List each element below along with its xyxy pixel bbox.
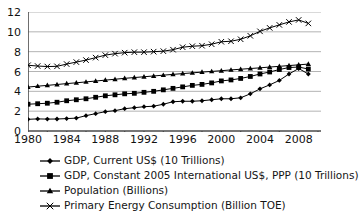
data-point-marker bbox=[28, 102, 30, 107]
data-point-marker bbox=[74, 116, 79, 121]
data-point-marker bbox=[190, 83, 195, 88]
y-axis-labels: 024681012 bbox=[0, 0, 26, 145]
data-point-marker bbox=[84, 113, 89, 118]
data-point-marker bbox=[93, 111, 98, 116]
y-axis-tick-label: 4 bbox=[0, 86, 26, 97]
data-point-marker bbox=[219, 96, 224, 101]
data-point-marker bbox=[267, 70, 272, 75]
x-axis-tick-label: 1992 bbox=[130, 134, 158, 146]
data-point-marker bbox=[64, 98, 69, 103]
chart-svg bbox=[28, 12, 324, 132]
data-point-marker bbox=[84, 96, 89, 101]
data-point-marker bbox=[229, 78, 234, 83]
data-point-marker bbox=[200, 98, 205, 103]
y-axis-tick-label: 12 bbox=[0, 7, 26, 18]
data-point-marker bbox=[248, 33, 254, 39]
data-series bbox=[28, 17, 311, 69]
y-axis-tick-label: 10 bbox=[0, 26, 26, 37]
legend-label: GDP, Current US$ (10 Trillions) bbox=[64, 154, 225, 166]
data-point-marker bbox=[161, 102, 166, 107]
data-point-marker bbox=[151, 89, 156, 94]
series-line bbox=[28, 69, 308, 120]
data-point-marker bbox=[238, 76, 243, 81]
data-point-marker bbox=[103, 93, 108, 98]
x-axis-tick-label: 1984 bbox=[53, 134, 81, 146]
data-point-marker bbox=[35, 101, 40, 106]
data-point-marker bbox=[55, 117, 60, 122]
y-axis-tick-label: 8 bbox=[0, 46, 26, 57]
series-line bbox=[28, 67, 308, 104]
data-point-marker bbox=[180, 84, 185, 89]
data-point-marker bbox=[113, 92, 118, 97]
data-point-marker bbox=[28, 117, 30, 122]
y-axis-tick-label: 6 bbox=[0, 66, 26, 77]
data-point-marker bbox=[171, 99, 176, 104]
data-point-marker bbox=[93, 95, 98, 100]
data-point-marker bbox=[171, 86, 176, 91]
legend-label: Primary Energy Consumption (Billion TOE) bbox=[64, 199, 286, 211]
data-point-marker bbox=[209, 81, 214, 86]
data-point-marker bbox=[258, 86, 263, 91]
data-point-marker bbox=[267, 25, 273, 31]
data-point-marker bbox=[142, 90, 147, 95]
x-axis-tick-label: 2004 bbox=[246, 134, 274, 146]
x-axis-tick-label: 1980 bbox=[14, 134, 42, 146]
data-point-marker bbox=[248, 91, 253, 96]
data-point-marker bbox=[306, 21, 312, 27]
data-point-marker bbox=[200, 82, 205, 87]
data-point-marker bbox=[277, 22, 283, 28]
data-point-marker bbox=[132, 105, 137, 110]
data-point-marker bbox=[306, 67, 311, 72]
x-axis-labels: 19801984198819921996200020042008 bbox=[0, 134, 336, 150]
data-point-marker bbox=[238, 95, 243, 100]
x-axis-tick-label: 2000 bbox=[207, 134, 235, 146]
data-point-marker bbox=[45, 101, 50, 106]
data-point-marker bbox=[229, 96, 234, 101]
data-point-marker bbox=[74, 97, 79, 102]
data-point-marker bbox=[180, 99, 185, 104]
data-point-marker bbox=[209, 97, 214, 102]
data-point-marker bbox=[219, 79, 224, 84]
legend-item[interactable]: GDP, Current US$ (10 Trillions) bbox=[0, 152, 336, 167]
data-point-marker bbox=[306, 61, 311, 66]
data-point-marker bbox=[64, 116, 69, 121]
data-point-marker bbox=[103, 109, 108, 114]
x-axis-tick-label: 2008 bbox=[285, 134, 313, 146]
data-point-marker bbox=[267, 82, 272, 87]
data-point-marker bbox=[142, 104, 147, 109]
legend-triangle-icon bbox=[38, 183, 64, 197]
data-point-marker bbox=[122, 91, 127, 96]
x-axis-tick-label: 1996 bbox=[169, 134, 197, 146]
legend-cross-icon bbox=[38, 198, 64, 212]
data-point-marker bbox=[190, 99, 195, 104]
legend-label: GDP, Constant 2005 International US$, PP… bbox=[64, 169, 359, 181]
data-point-marker bbox=[151, 104, 156, 109]
data-point-marker bbox=[55, 100, 60, 105]
data-point-marker bbox=[161, 87, 166, 92]
legend-diamond-icon bbox=[38, 153, 64, 167]
data-point-marker bbox=[35, 117, 40, 122]
chart-plot-area: 024681012 bbox=[0, 0, 336, 145]
data-point-marker bbox=[132, 91, 137, 96]
data-point-marker bbox=[258, 72, 263, 77]
data-point-marker bbox=[45, 117, 50, 122]
y-axis-tick-label: 2 bbox=[0, 106, 26, 117]
series-line bbox=[28, 64, 308, 87]
chart-legend: GDP, Current US$ (10 Trillions)GDP, Cons… bbox=[0, 152, 336, 214]
data-point-marker bbox=[113, 108, 118, 113]
data-point-marker bbox=[122, 106, 127, 111]
legend-square-icon bbox=[38, 168, 64, 182]
data-point-marker bbox=[306, 72, 311, 77]
legend-item[interactable]: Population (Billions) bbox=[0, 182, 336, 197]
series-line bbox=[28, 20, 308, 67]
legend-item[interactable]: GDP, Constant 2005 International US$, PP… bbox=[0, 167, 336, 182]
legend-item[interactable]: Primary Energy Consumption (Billion TOE) bbox=[0, 197, 336, 212]
data-point-marker bbox=[248, 74, 253, 79]
legend-label: Population (Billions) bbox=[64, 184, 168, 196]
x-axis-tick-label: 1988 bbox=[91, 134, 119, 146]
series-canvas bbox=[28, 12, 318, 131]
